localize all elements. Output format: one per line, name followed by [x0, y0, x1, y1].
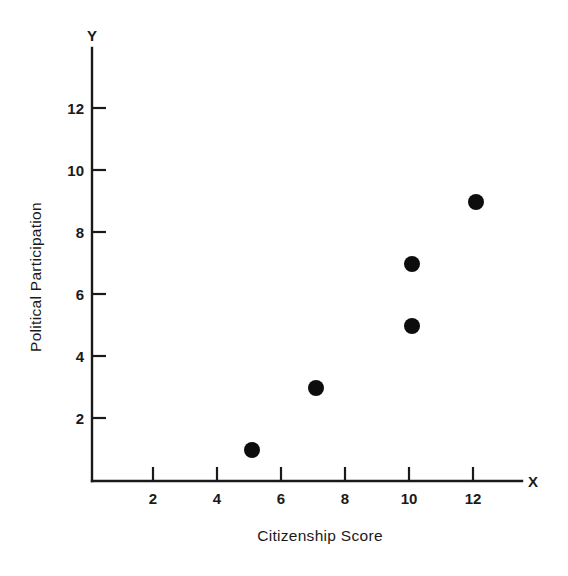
- plot-canvas: 12 10 8 6 4 2 2 4 6 8 10 12 Y X: [0, 0, 568, 576]
- y-tick-label-4: 4: [76, 348, 85, 365]
- x-axis-tick-labels: 2 4 6 8 10 12: [149, 490, 482, 507]
- x-tick-label-2: 2: [149, 490, 157, 507]
- data-point: [308, 380, 324, 396]
- y-tick-label-2: 2: [76, 410, 84, 427]
- x-axis-end-label: X: [528, 473, 538, 490]
- data-point: [404, 318, 420, 334]
- data-point: [244, 442, 260, 458]
- data-points-layer: [244, 194, 484, 458]
- x-tick-label-8: 8: [341, 490, 349, 507]
- y-axis-ticks: [92, 108, 106, 418]
- y-axis-tick-labels: 12 10 8 6 4 2: [67, 100, 84, 427]
- x-axis-title: Citizenship Score: [257, 527, 383, 544]
- x-tick-label-10: 10: [401, 490, 418, 507]
- y-axis-end-label: Y: [87, 27, 97, 44]
- y-tick-label-6: 6: [76, 286, 84, 303]
- data-point: [468, 194, 484, 210]
- y-tick-label-12: 12: [67, 100, 84, 117]
- x-axis-ticks: [153, 467, 473, 481]
- y-tick-label-8: 8: [76, 224, 84, 241]
- scatter-plot-figure: 12 10 8 6 4 2 2 4 6 8 10 12 Y X: [0, 0, 568, 576]
- y-tick-label-10: 10: [67, 162, 84, 179]
- x-tick-label-12: 12: [465, 490, 482, 507]
- axes-group: [92, 48, 522, 481]
- data-point: [404, 256, 420, 272]
- y-axis-title: Political Participation: [27, 202, 44, 352]
- x-tick-label-6: 6: [277, 490, 285, 507]
- x-tick-label-4: 4: [213, 490, 222, 507]
